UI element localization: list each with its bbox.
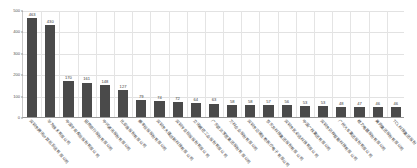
bar-rect	[282, 105, 292, 117]
bar[interactable]: 46	[373, 10, 383, 117]
x-axis-category-label: 立讯精密工业股份有限公司	[192, 119, 228, 158]
bar-value-label: 64	[194, 98, 199, 102]
y-axis-tick-label: 300	[13, 52, 20, 56]
y-axis-tick-mark	[21, 32, 23, 33]
bar-rect	[373, 107, 383, 117]
bar-value-label: 58	[230, 100, 235, 104]
bars-layer: 4634301701611481277974726463585857565353…	[23, 11, 404, 117]
y-axis-tick-mark	[21, 11, 23, 12]
bar-value-label: 53	[321, 101, 326, 105]
bar[interactable]: 57	[263, 10, 273, 117]
bar[interactable]: 72	[173, 10, 183, 117]
x-axis-category-label: 京东方科技集团股份有限公司	[265, 119, 304, 161]
bar-rect	[136, 100, 146, 117]
bar-rect	[263, 105, 273, 117]
bar[interactable]: 74	[154, 10, 164, 117]
y-axis-tick-mark	[21, 53, 23, 54]
bar-value-label: 63	[212, 98, 217, 102]
bar-rect	[82, 83, 92, 117]
bar-rect	[63, 81, 73, 117]
bar[interactable]: 64	[191, 10, 201, 117]
bar-value-label: 430	[47, 20, 54, 24]
bar[interactable]: 48	[336, 10, 346, 117]
bar-rect	[27, 18, 37, 117]
bar[interactable]: 127	[118, 10, 128, 117]
bar-value-label: 47	[357, 102, 362, 106]
bar-rect	[191, 103, 201, 117]
y-axis-tick-mark	[21, 75, 23, 76]
bar-value-label: 46	[375, 102, 380, 106]
bar-rect	[45, 25, 55, 117]
bar-value-label: 463	[29, 13, 36, 17]
bar-value-label: 56	[284, 100, 289, 104]
bar-rect	[118, 90, 128, 117]
y-axis-tick-label: 200	[13, 73, 20, 77]
bar[interactable]: 53	[300, 10, 310, 117]
bar-rect	[245, 105, 255, 117]
bar-rect	[173, 102, 183, 117]
bar-rect	[154, 101, 164, 117]
bar-value-label: 161	[83, 77, 90, 81]
y-axis-tick-mark	[21, 96, 23, 97]
bar[interactable]: 63	[209, 10, 219, 117]
bar[interactable]: 53	[318, 10, 328, 117]
bar[interactable]: 161	[82, 10, 92, 117]
bar-rect	[100, 85, 110, 117]
bar[interactable]: 430	[45, 10, 55, 117]
x-axis-category-label: 深圳传音控股股份有限公司	[174, 119, 210, 158]
bar-rect	[209, 104, 219, 117]
bar[interactable]: 148	[100, 10, 110, 117]
bar-value-label: 57	[266, 100, 271, 104]
bar-rect	[336, 107, 346, 117]
bar-value-label: 170	[65, 76, 72, 80]
y-axis-tick-label: 400	[13, 30, 20, 34]
bar[interactable]: 79	[136, 10, 146, 117]
x-axis-category-label: 中国平安保险股份有限公司	[64, 119, 100, 158]
bar-rect	[227, 105, 237, 117]
plot-area: 4634301701611481277974726463585857565353…	[22, 11, 404, 118]
bar-value-label: 48	[339, 102, 344, 106]
bar[interactable]: 58	[245, 10, 255, 117]
bar-value-label: 148	[101, 80, 108, 84]
bar-value-label: 72	[175, 97, 180, 101]
bar-value-label: 74	[157, 96, 162, 100]
bar[interactable]: 170	[63, 10, 73, 117]
bar[interactable]: 58	[227, 10, 237, 117]
y-axis-tick-label: 0	[18, 116, 20, 120]
bar-value-label: 127	[120, 85, 127, 89]
x-axis-category-label: 深圳市优必选科技有限公司	[283, 119, 319, 158]
bar-value-label: 58	[248, 100, 253, 104]
y-axis-tick-label: 100	[13, 95, 20, 99]
bar-rect	[300, 106, 310, 117]
x-axis-category-labels: 深圳市腾讯计算机系统有限公司华为技术有限公司中国平安保险股份有限公司招商银行股份…	[22, 119, 404, 168]
x-axis-category-label: 广州汽车集团股份有限公司	[337, 119, 373, 158]
bar-rect	[354, 107, 364, 117]
y-axis-tick-label: 500	[13, 9, 20, 13]
bar-rect	[318, 106, 328, 117]
bar[interactable]: 463	[27, 10, 37, 117]
bar[interactable]: 46	[391, 10, 401, 117]
bar-value-label: 46	[394, 102, 399, 106]
bar-value-label: 53	[303, 101, 308, 105]
bar[interactable]: 56	[282, 10, 292, 117]
bar[interactable]: 47	[354, 10, 364, 117]
bar-value-label: 79	[139, 95, 144, 99]
bar-rect	[391, 107, 401, 117]
